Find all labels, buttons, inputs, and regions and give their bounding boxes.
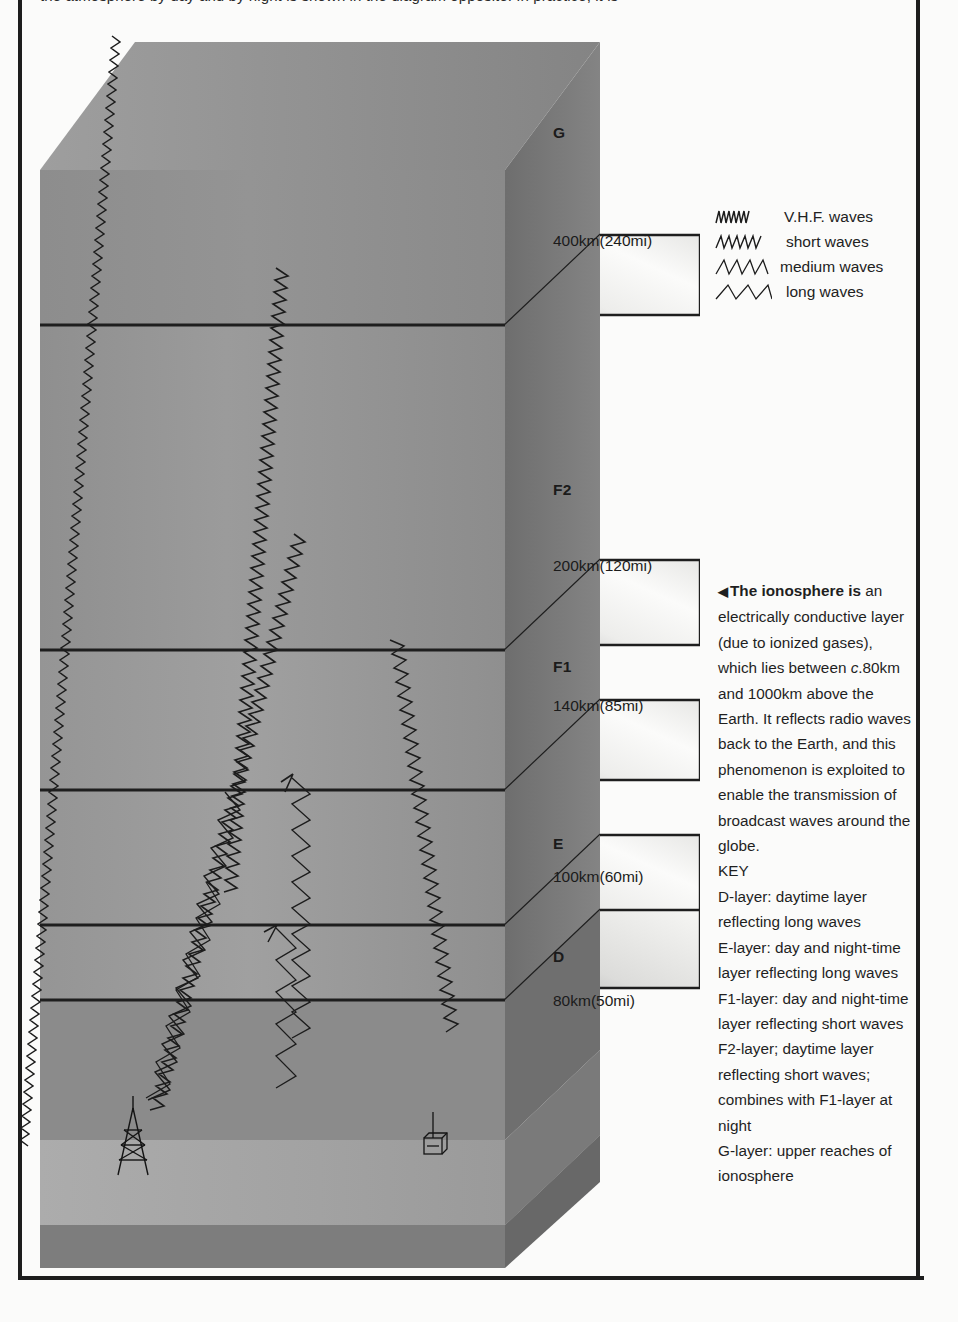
- legend-label-medium: medium waves: [776, 258, 883, 276]
- caption-block: ◀The ionosphere is an electrically condu…: [718, 578, 914, 1189]
- legend-item-vhf: V.H.F. waves: [714, 204, 919, 229]
- altitude-label-100km: 100km(60mi): [553, 868, 643, 886]
- legend-label-vhf: V.H.F. waves: [776, 208, 873, 226]
- diagram-svg: [0, 0, 700, 1270]
- wave-legend: V.H.F. waves short waves medium waves: [714, 204, 919, 304]
- key-entry-g: G-layer: upper reaches of ionosphere: [718, 1138, 914, 1189]
- short-wave-icon: [714, 231, 776, 253]
- layer-block-G: [40, 42, 600, 325]
- altitude-label-400km: 400km(240mi): [553, 232, 652, 250]
- altitude-label-80km: 80km(50mi): [553, 992, 635, 1010]
- page-root: the atmosphere by day and by night is sh…: [0, 0, 958, 1322]
- legend-item-long: long waves: [714, 279, 919, 304]
- long-wave-icon: [714, 281, 776, 303]
- key-entry-f1: F1-layer: day and night-time layer refle…: [718, 986, 914, 1037]
- legend-label-short: short waves: [776, 233, 869, 251]
- medium-wave-icon: [714, 256, 776, 278]
- caption-body-2: .80km and 1000km above the Earth. It ref…: [718, 659, 911, 854]
- altitude-label-140km: 140km(85mi): [553, 697, 643, 715]
- right-column: V.H.F. waves short waves medium waves: [700, 0, 916, 1280]
- layer-label-D: D: [553, 948, 565, 966]
- layer-label-E: E: [553, 835, 564, 853]
- key-entry-d: D-layer: daytime layer reflecting long w…: [718, 884, 914, 935]
- caption-lead: The ionosphere is: [730, 582, 861, 599]
- caption-arrow-icon: ◀: [718, 584, 730, 599]
- vhf-wave-icon: [714, 206, 776, 228]
- key-entry-e: E-layer: day and night-time layer reflec…: [718, 935, 914, 986]
- key-entry-f2: F2-layer; daytime layer reflecting short…: [718, 1036, 914, 1138]
- legend-item-medium: medium waves: [714, 254, 919, 279]
- legend-item-short: short waves: [714, 229, 919, 254]
- caption-paragraph: ◀The ionosphere is an electrically condu…: [718, 578, 914, 858]
- layer-label-F2: F2: [553, 481, 572, 499]
- key-heading: KEY: [718, 858, 914, 883]
- ionosphere-diagram: G F2 F1 E D 400km(240mi) 200km(120mi) 14…: [0, 0, 700, 1270]
- layer-label-G: G: [553, 124, 565, 142]
- column-divider-rule: [916, 0, 920, 1280]
- altitude-label-200km: 200km(120mi): [553, 557, 652, 575]
- legend-label-long: long waves: [776, 283, 864, 301]
- layer-label-F1: F1: [553, 658, 572, 676]
